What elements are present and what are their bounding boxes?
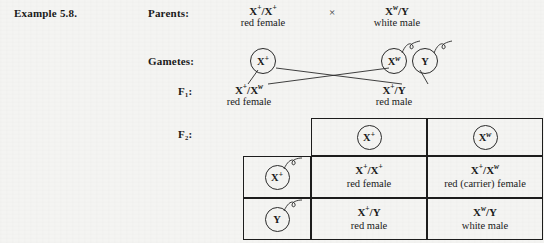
punnett-row-header-1-circle: Y bbox=[265, 207, 290, 232]
punnett-cell-0-1-genotype: X+/Xw bbox=[471, 164, 499, 178]
punnett-cell-0-1: X+/Xw red (carrier) female bbox=[427, 156, 543, 198]
punnett-cell-0-1-phenotype: red (carrier) female bbox=[444, 177, 526, 190]
punnett-cell-1-0-genotype: X+/Y bbox=[357, 206, 380, 220]
punnett-col-header-0-circle: X+ bbox=[357, 125, 382, 150]
punnett-cell-0-0: X+/X+ red female bbox=[311, 156, 427, 198]
punnett-cell-1-0: X+/Y red male bbox=[311, 198, 427, 240]
f1-daughter: X+/Xw red female bbox=[203, 84, 295, 107]
gamete-paternal-y: Y bbox=[412, 48, 438, 74]
gamete-paternal-y-label: Y bbox=[421, 56, 429, 67]
f1-daughter-genotype: X+/Xw bbox=[203, 84, 295, 96]
punnett-row-header-1-label: Y bbox=[273, 214, 281, 225]
punnett-cell-0-0-genotype: X+/X+ bbox=[355, 164, 383, 178]
punnett-col-header-1-label: Xw bbox=[479, 132, 492, 143]
punnett-row-header-0: X+ bbox=[243, 156, 311, 198]
f1-daughter-phenotype: red female bbox=[203, 96, 295, 107]
f1-son: X+/Y red male bbox=[348, 84, 440, 107]
gamete-maternal-label: X+ bbox=[257, 56, 269, 67]
punnett-row-header-1: Y bbox=[243, 198, 311, 240]
punnett-cell-1-1-genotype: Xw/Y bbox=[473, 206, 497, 220]
punnett-row-header-0-label: X+ bbox=[271, 172, 283, 183]
gamete-paternal-xw: Xw bbox=[381, 48, 407, 74]
punnett-col-header-1-circle: Xw bbox=[473, 125, 498, 150]
punnett-col-header-0-label: X+ bbox=[363, 132, 375, 143]
punnett-cell-0-0-phenotype: red female bbox=[347, 177, 392, 190]
gamete-maternal-x-plus: X+ bbox=[250, 48, 276, 74]
punnett-cell-1-1-phenotype: white male bbox=[462, 219, 508, 232]
f1-son-genotype: X+/Y bbox=[348, 84, 440, 96]
genetics-cross-figure: Example 5.8. Parents: Gametes: F₁: F₂: X… bbox=[0, 0, 544, 243]
f1-son-phenotype: red male bbox=[348, 96, 440, 107]
punnett-col-header-0: X+ bbox=[311, 118, 427, 156]
punnett-cell-1-1: Xw/Y white male bbox=[427, 198, 543, 240]
punnett-row-header-0-circle: X+ bbox=[265, 165, 290, 190]
punnett-col-header-1: Xw bbox=[427, 118, 543, 156]
gamete-paternal-x-label: Xw bbox=[388, 56, 401, 67]
punnett-cell-1-0-phenotype: red male bbox=[351, 219, 387, 232]
